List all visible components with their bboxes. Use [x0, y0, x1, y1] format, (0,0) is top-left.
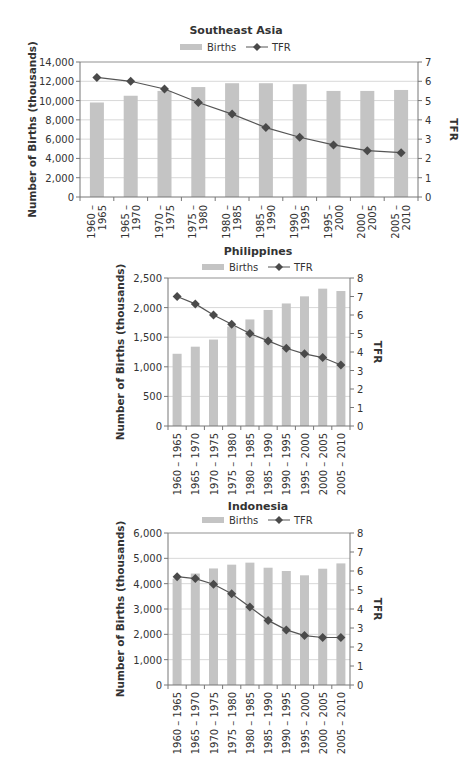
y-axis-label: Number of Births (thousands)	[114, 264, 126, 441]
y2-tick-label: 0	[357, 421, 363, 432]
x-tick-label: 1970	[131, 205, 142, 230]
births-bar	[300, 296, 309, 426]
y2-tick-label: 2	[357, 384, 363, 395]
y-tick-label: 14,000	[39, 57, 74, 68]
y-tick-label: 2,500	[133, 273, 162, 284]
y2-tick-label: 8	[357, 528, 363, 539]
y-tick-label: 4,000	[45, 153, 74, 164]
x-tick-label: 2005 –	[390, 205, 401, 239]
chart-title: Indonesia	[228, 500, 288, 513]
x-tick-label: 2000 – 2005	[318, 433, 329, 495]
y2-tick-label: 4	[357, 347, 363, 358]
y-tick-label: 1,500	[133, 332, 162, 343]
x-tick-label: 1995 – 2000	[300, 433, 311, 495]
y2-tick-label: 5	[357, 329, 363, 340]
y2-tick-label: 7	[357, 547, 363, 558]
y-tick-label: 6,000	[133, 528, 162, 539]
tfr-marker	[209, 311, 218, 320]
y-tick-label: 8,000	[45, 115, 74, 126]
x-tick-label: 1980 – 1985	[245, 692, 256, 754]
y2-axis-label: TFR	[372, 341, 384, 363]
births-bar	[227, 565, 236, 685]
y-tick-label: 6,000	[45, 134, 74, 145]
x-tick-label: 1985 – 1990	[263, 692, 274, 754]
legend-tfr-label: TFR	[293, 515, 313, 526]
y2-tick-label: 7	[357, 292, 363, 303]
indonesia-svg: IndonesiaBirthsTFR01,0002,0003,0004,0005…	[0, 495, 472, 760]
x-tick-label: 1960 – 1965	[172, 692, 183, 754]
x-tick-label: 2000 – 2005	[318, 692, 329, 754]
y-tick-label: 0	[156, 680, 162, 691]
x-tick-label: 2000	[334, 205, 345, 230]
tfr-marker	[173, 292, 182, 301]
y-tick-label: 10,000	[39, 96, 74, 107]
births-bar	[264, 310, 273, 426]
y2-tick-label: 5	[357, 585, 363, 596]
legend: BirthsTFR	[202, 262, 313, 273]
y2-tick-label: 2	[425, 153, 431, 164]
chart-title: Philippines	[224, 245, 293, 258]
legend: BirthsTFR	[202, 515, 313, 526]
y2-tick-label: 1	[357, 661, 363, 672]
births-bar	[300, 575, 309, 685]
legend-births-label: Births	[229, 515, 258, 526]
x-tick-label: 2005 – 2010	[336, 433, 347, 495]
births-bar	[158, 91, 172, 197]
y2-tick-label: 0	[425, 192, 431, 203]
x-tick-label: 1975 –	[187, 205, 198, 239]
births-bar	[336, 291, 345, 426]
y-tick-label: 2,000	[133, 629, 162, 640]
x-tick-label: 1980 –	[221, 205, 232, 239]
y-tick-label: 12,000	[39, 76, 74, 87]
x-tick-label: 1960 – 1965	[172, 433, 183, 495]
philippines-svg: PhilippinesBirthsTFR05001,0001,5002,0002…	[0, 240, 472, 495]
x-tick-label: 1975 – 1980	[227, 692, 238, 754]
x-tick-label: 1995	[300, 205, 311, 230]
x-tick-label: 1965	[97, 205, 108, 230]
births-bar	[360, 91, 374, 197]
y2-tick-label: 3	[357, 623, 363, 634]
y-tick-label: 1,000	[133, 655, 162, 666]
x-tick-label: 1965 – 1970	[190, 433, 201, 495]
x-tick-label: 1990	[266, 205, 277, 230]
southeast-asia-svg: Southeast AsiaBirthsTFR02,0004,0006,0008…	[0, 0, 472, 240]
y2-tick-label: 4	[357, 604, 363, 615]
x-tick-label: 1990 – 1995	[281, 692, 292, 754]
x-tick-label: 1995 –	[323, 205, 334, 239]
chart-title: Southeast Asia	[189, 24, 282, 37]
legend-births-swatch	[202, 264, 224, 270]
births-bar	[173, 354, 182, 426]
x-tick-label: 1990 –	[289, 205, 300, 239]
x-tick-label: 1985	[232, 205, 243, 230]
diamond-marker-icon	[275, 516, 283, 524]
births-bar	[227, 327, 236, 426]
legend-births-swatch	[180, 44, 202, 50]
y2-tick-label: 6	[425, 76, 431, 87]
births-bar	[336, 563, 345, 685]
legend-births-label: Births	[229, 262, 258, 273]
tfr-marker	[92, 73, 101, 82]
chart-philippines: PhilippinesBirthsTFR05001,0001,5002,0002…	[0, 240, 472, 495]
x-tick-label: 1965 – 1970	[190, 692, 201, 754]
legend-tfr-label: TFR	[271, 42, 291, 53]
x-tick-label: 1975 – 1980	[227, 433, 238, 495]
y-tick-label: 3,000	[133, 604, 162, 615]
births-bar	[282, 303, 291, 426]
y2-axis-label: TFR	[448, 118, 460, 140]
births-bar	[264, 568, 273, 685]
y-tick-label: 5,000	[133, 553, 162, 564]
births-bar	[191, 574, 200, 685]
y2-tick-label: 0	[357, 680, 363, 691]
y-tick-label: 4,000	[133, 579, 162, 590]
births-bar	[173, 579, 182, 685]
y2-tick-label: 3	[425, 134, 431, 145]
x-tick-label: 1975	[165, 205, 176, 230]
x-tick-label: 1985 – 1990	[263, 433, 274, 495]
x-tick-label: 1990 – 1995	[281, 433, 292, 495]
births-bar	[124, 96, 138, 197]
y2-tick-label: 1	[357, 403, 363, 414]
y2-tick-label: 8	[357, 273, 363, 284]
births-bar	[209, 340, 218, 426]
x-tick-label: 2010	[401, 205, 412, 230]
y-tick-label: 1,000	[133, 362, 162, 373]
